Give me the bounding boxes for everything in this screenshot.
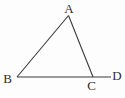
vertex-label-C: C	[87, 78, 96, 93]
vertex-label-B: B	[3, 71, 12, 86]
triangle-diagram: ABCD	[0, 0, 125, 98]
geometry-figure: ABCD	[0, 0, 125, 98]
vertex-label-D: D	[112, 68, 121, 83]
vertex-label-A: A	[64, 1, 74, 16]
segment-side-AC	[69, 16, 94, 78]
segment-side-AB	[17, 16, 69, 78]
